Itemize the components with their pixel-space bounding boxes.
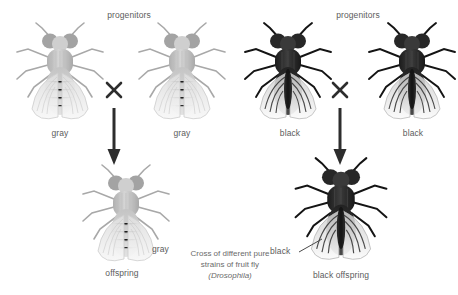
phenotype-label-gray-parent-left: gray bbox=[52, 128, 69, 138]
caption-line-1: Cross of different pure bbox=[190, 248, 269, 259]
offspring-label-gray: offspring bbox=[105, 268, 138, 278]
phenotype-label-gray-offspring: gray bbox=[152, 244, 169, 254]
cross-symbol-black bbox=[330, 80, 350, 100]
cross-symbol-gray bbox=[104, 80, 124, 100]
progenitors-heading-gray: progenitors bbox=[107, 10, 151, 20]
diagram-caption: Cross of different pure strains of fruit… bbox=[190, 248, 269, 281]
offspring-label-black: black offspring bbox=[313, 270, 369, 280]
phenotype-label-gray-parent-right: gray bbox=[174, 128, 191, 138]
phenotype-label-black-parent-left: black bbox=[280, 128, 300, 138]
fly-black-parent-right bbox=[366, 21, 458, 127]
phenotype-pointer-black-offspring bbox=[298, 238, 324, 254]
fly-black-parent-left bbox=[242, 21, 334, 127]
phenotype-label-black-offspring: black bbox=[270, 246, 290, 256]
caption-species-name: (Drosophila) bbox=[190, 270, 269, 281]
fly-gray-parent-left bbox=[14, 21, 106, 127]
fruit-fly-cross-diagram: progenitors bbox=[0, 0, 458, 295]
phenotype-label-black-parent-right: black bbox=[403, 128, 423, 138]
fly-gray-parent-right bbox=[136, 21, 228, 127]
inheritance-arrow-gray bbox=[106, 108, 122, 166]
caption-line-2: strains of fruit fly bbox=[190, 259, 269, 270]
progenitors-heading-black: progenitors bbox=[336, 10, 380, 20]
